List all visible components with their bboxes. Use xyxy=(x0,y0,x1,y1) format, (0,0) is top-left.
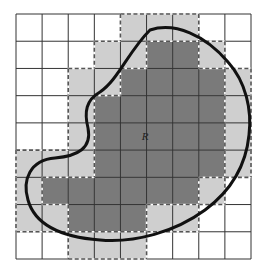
outer-cell xyxy=(68,68,94,95)
empty-cell xyxy=(68,14,94,41)
empty-cell xyxy=(225,232,251,259)
inner-cell xyxy=(199,96,225,123)
inner-cell xyxy=(147,96,173,123)
empty-cell xyxy=(225,177,251,204)
outer-cell xyxy=(42,205,68,232)
empty-cell xyxy=(173,232,199,259)
inner-cell xyxy=(120,68,146,95)
empty-cell xyxy=(42,232,68,259)
empty-cell xyxy=(199,232,225,259)
outer-cell xyxy=(94,41,120,68)
outer-cell xyxy=(68,123,94,150)
empty-cell xyxy=(199,14,225,41)
inner-cell xyxy=(120,96,146,123)
inner-cell xyxy=(147,123,173,150)
empty-cell xyxy=(16,68,42,95)
inner-cell xyxy=(147,41,173,68)
empty-cell xyxy=(94,14,120,41)
empty-cell xyxy=(42,68,68,95)
inner-cell xyxy=(173,96,199,123)
empty-cell xyxy=(16,232,42,259)
empty-cell xyxy=(16,123,42,150)
inner-cell xyxy=(173,41,199,68)
inner-cell xyxy=(68,177,94,204)
empty-cell xyxy=(199,205,225,232)
inner-cell xyxy=(94,205,120,232)
inner-cell xyxy=(173,123,199,150)
inner-cell xyxy=(94,177,120,204)
outer-cell xyxy=(147,205,173,232)
empty-cell xyxy=(16,41,42,68)
inner-cell xyxy=(68,205,94,232)
empty-cell xyxy=(68,41,94,68)
inner-cell xyxy=(173,68,199,95)
inner-cell xyxy=(199,123,225,150)
region-label: R xyxy=(141,130,149,142)
outer-cell xyxy=(94,232,120,259)
inner-cell xyxy=(120,150,146,177)
empty-cell xyxy=(42,41,68,68)
inner-cell xyxy=(94,150,120,177)
inner-cell xyxy=(94,123,120,150)
empty-cell xyxy=(225,205,251,232)
inner-cell xyxy=(173,177,199,204)
inner-cell xyxy=(120,177,146,204)
empty-cell xyxy=(42,14,68,41)
outer-cell xyxy=(199,177,225,204)
inner-cell xyxy=(173,150,199,177)
riemann-grid-diagram: R xyxy=(0,0,266,272)
inner-cell xyxy=(199,150,225,177)
empty-cell xyxy=(225,14,251,41)
inner-cell xyxy=(147,150,173,177)
empty-cell xyxy=(42,96,68,123)
inner-cell xyxy=(147,68,173,95)
inner-cell xyxy=(42,177,68,204)
outer-cell xyxy=(225,68,251,95)
outer-cell xyxy=(42,150,68,177)
inner-cell xyxy=(120,205,146,232)
empty-cell xyxy=(16,14,42,41)
inner-cell xyxy=(94,96,120,123)
inner-cell xyxy=(199,68,225,95)
empty-cell xyxy=(42,123,68,150)
inner-cell xyxy=(147,177,173,204)
empty-cell xyxy=(16,96,42,123)
